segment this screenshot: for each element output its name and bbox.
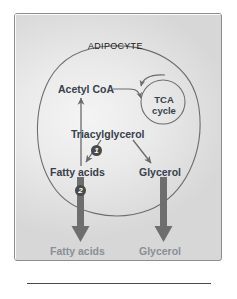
- node-acetyl-coa: Acetyl CoA: [58, 84, 114, 95]
- node-tca-cycle: TCA cycle: [148, 95, 180, 116]
- node-fatty-acids-cell: Fatty acids: [50, 167, 105, 178]
- diagram-panel: ADIPOCYTE Acetyl CoA TCA cycle Triacylgl…: [14, 13, 222, 261]
- adipocyte-lipolysis-diagram: ADIPOCYTE Acetyl CoA TCA cycle Triacylgl…: [0, 0, 237, 299]
- figure-bottom-rule: [27, 283, 211, 284]
- step-badge-1: 1: [91, 145, 102, 156]
- node-triacylglycerol: Triacylglycerol: [71, 129, 145, 140]
- step-badge-2: 2: [75, 185, 86, 196]
- node-glycerol-cell: Glycerol: [139, 167, 181, 178]
- tca-label-line2: cycle: [148, 106, 180, 117]
- node-fatty-acids-blood: Fatty acids: [50, 246, 105, 257]
- acetylcoa-to-tca-connector: [113, 89, 141, 98]
- tag-to-glycerol-arrow: [133, 140, 151, 163]
- glycerol-transport-arrow: [155, 177, 173, 242]
- adipocyte-label: ADIPOCYTE: [88, 42, 143, 51]
- node-glycerol-blood: Glycerol: [139, 246, 181, 257]
